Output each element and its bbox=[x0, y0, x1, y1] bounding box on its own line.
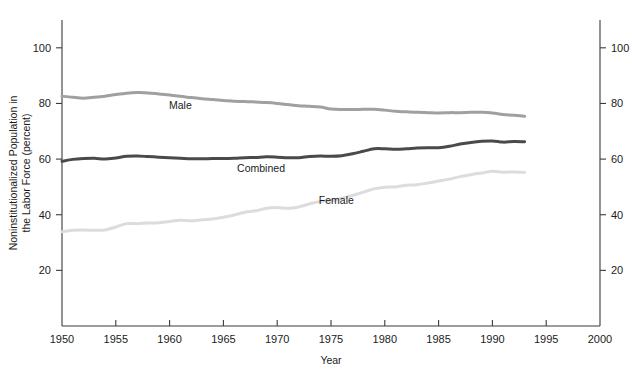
y-axis-title-line2: the Labor Force (percent) bbox=[20, 113, 32, 232]
right-axis-tick-label: 100 bbox=[611, 42, 629, 54]
bottom-axis-tick-label: 1990 bbox=[480, 333, 504, 345]
bottom-axis-tick-label: 1995 bbox=[534, 333, 558, 345]
right-axis-tick-label: 80 bbox=[611, 97, 623, 109]
series-label-female: Female bbox=[319, 194, 354, 206]
right-axis-tick-label: 20 bbox=[611, 264, 623, 276]
y-axis-title-line1: Noninstitutionalized Population in bbox=[7, 95, 19, 250]
right-axis-tick-label: 60 bbox=[611, 153, 623, 165]
x-axis-title: Year bbox=[320, 354, 342, 366]
bottom-axis-tick-label: 1955 bbox=[104, 333, 128, 345]
chart-canvas: 20406080100 20406080100 1950195519601965… bbox=[0, 0, 632, 378]
bottom-axis-tick-label: 2000 bbox=[588, 333, 612, 345]
series-label-combined: Combined bbox=[237, 162, 285, 174]
bottom-axis-tick-label: 1980 bbox=[373, 333, 397, 345]
bottom-axis-tick-label: 1985 bbox=[426, 333, 450, 345]
bottom-axis-tick-label: 1960 bbox=[157, 333, 181, 345]
series-label-male: Male bbox=[169, 99, 192, 111]
left-axis-tick-label: 100 bbox=[33, 42, 51, 54]
bottom-axis-tick-label: 1975 bbox=[319, 333, 343, 345]
chart-background bbox=[0, 0, 632, 378]
left-axis-tick-label: 80 bbox=[39, 97, 51, 109]
labor-force-participation-chart: 20406080100 20406080100 1950195519601965… bbox=[0, 0, 632, 378]
bottom-axis-tick-label: 1970 bbox=[265, 333, 289, 345]
right-axis-tick-label: 40 bbox=[611, 209, 623, 221]
bottom-axis-tick-label: 1950 bbox=[50, 333, 74, 345]
left-axis-tick-label: 60 bbox=[39, 153, 51, 165]
left-axis-tick-label: 40 bbox=[39, 209, 51, 221]
left-axis-tick-label: 20 bbox=[39, 264, 51, 276]
bottom-axis-tick-label: 1965 bbox=[211, 333, 235, 345]
